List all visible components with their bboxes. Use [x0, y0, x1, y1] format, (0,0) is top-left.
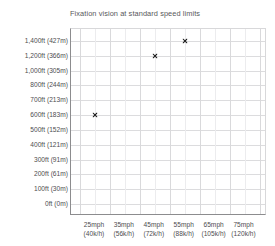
x-axis-tick-label: 35mph(56k/h) [113, 221, 134, 238]
y-axis-tick-label: 500ft (152m) [30, 125, 68, 132]
y-axis-tick-label: 400ft (121m) [30, 140, 68, 147]
x-axis-tick-label: 75mph(120k/h) [231, 221, 255, 238]
y-axis-tick-label: 700ft (213m) [30, 96, 68, 103]
x-tick-secondary: (56k/h) [113, 230, 134, 239]
x-tick-primary: 25mph [84, 221, 104, 228]
data-point-marker [152, 53, 157, 58]
chart-root: Fixation vision at standard speed limits… [0, 0, 275, 246]
data-point-marker [92, 113, 97, 118]
y-axis-tick-label: 1,400ft (427m) [25, 37, 68, 44]
y-axis-tick-label: 1,200ft (366m) [25, 51, 68, 58]
y-axis-tick-label: 200ft (61m) [34, 170, 68, 177]
x-tick-primary: 75mph [233, 221, 253, 228]
x-axis-tick-label: 45mph(72k/h) [143, 221, 164, 238]
x-tick-secondary: (40k/h) [84, 230, 105, 239]
x-tick-secondary: (88k/h) [173, 230, 194, 239]
x-tick-primary: 55mph [174, 221, 194, 228]
y-axis-tick-label: 0ft (0m) [45, 200, 68, 207]
x-axis-tick-label: 65mph(105k/h) [201, 221, 225, 238]
data-point-marker [182, 39, 187, 44]
x-tick-primary: 45mph [144, 221, 164, 228]
y-axis-tick-label: 1,000ft (305m) [25, 66, 68, 73]
plot-area [70, 28, 266, 215]
x-tick-primary: 35mph [114, 221, 134, 228]
x-axis-tick-label: 25mph(40k/h) [84, 221, 105, 238]
y-axis-tick-label: 300ft (91m) [34, 155, 68, 162]
x-tick-secondary: (120k/h) [231, 230, 255, 239]
x-tick-secondary: (105k/h) [201, 230, 225, 239]
y-axis-tick-label: 600ft (183m) [30, 111, 68, 118]
data-points [71, 29, 265, 214]
x-tick-primary: 65mph [203, 221, 223, 228]
y-axis-tick-label: 100ft (30m) [34, 185, 68, 192]
x-axis-tick-label: 55mph(88k/h) [173, 221, 194, 238]
x-tick-secondary: (72k/h) [143, 230, 164, 239]
chart-title: Fixation vision at standard speed limits [70, 9, 200, 18]
y-axis-tick-label: 800ft (244m) [30, 81, 68, 88]
